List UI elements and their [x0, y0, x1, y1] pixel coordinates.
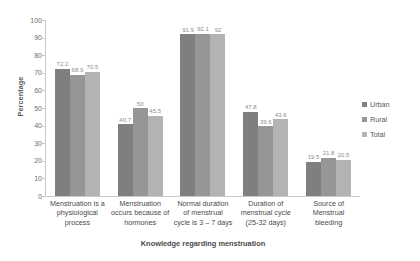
bar-group-bars: 72.268.970.5: [46, 20, 109, 196]
bar[interactable]: 43.6: [273, 119, 288, 196]
y-axis-tick-mark: [42, 90, 45, 91]
x-axis-category-line: Menstrual: [297, 208, 360, 217]
bar-value-label: 47.8: [245, 104, 257, 111]
bar[interactable]: 39.6: [258, 126, 273, 196]
y-axis-tick-label: 30: [16, 140, 42, 147]
y-axis-tick-labels: 1009080706050403020100: [12, 0, 42, 261]
x-axis-category-line: Normal duration: [172, 199, 235, 208]
bar[interactable]: 91.9: [180, 34, 195, 196]
bar-group: 72.268.970.5: [46, 20, 109, 196]
x-axis-category-line: Menstruation is a: [46, 199, 109, 208]
x-axis-line: [45, 196, 360, 197]
bar-value-label: 40.7: [119, 117, 131, 124]
bar-group: 91.992.192: [172, 20, 235, 196]
legend-item[interactable]: Total: [362, 127, 420, 142]
bar[interactable]: 47.8: [243, 112, 258, 196]
y-axis-tick-mark: [42, 20, 45, 21]
x-axis-category-line: process: [46, 218, 109, 227]
bar-value-label: 92: [215, 27, 222, 34]
x-axis-category-line: (25-32 days): [234, 218, 297, 227]
x-axis-category-line: of menstrual: [172, 208, 235, 217]
legend-label: Total: [370, 130, 385, 139]
bar-value-label: 45.5: [149, 108, 161, 115]
y-axis-tick-label: 0: [16, 193, 42, 200]
y-axis-tick-mark: [42, 196, 45, 197]
chart-legend: UrbanRuralTotal: [362, 97, 420, 142]
plot-area: 72.268.970.540.75045.591.992.19247.839.6…: [46, 20, 360, 196]
y-axis-tick-mark: [42, 55, 45, 56]
legend-label: Rural: [370, 115, 387, 124]
bar-value-label: 70.5: [87, 64, 99, 71]
y-axis-tick-label: 20: [16, 157, 42, 164]
bar[interactable]: 70.5: [85, 72, 100, 196]
legend-swatch-icon: [362, 117, 367, 122]
x-axis-category-label: Menstruationoccurs because ofhormones: [109, 199, 172, 227]
x-axis-category-line: Menstruation: [109, 199, 172, 208]
x-axis-category-line: hormones: [109, 218, 172, 227]
bar-value-label: 91.9: [182, 27, 194, 34]
x-axis-category-labels: Menstruation is aphysiologicalprocessMen…: [46, 199, 360, 239]
bar-value-label: 50: [137, 101, 144, 108]
bar[interactable]: 68.9: [70, 75, 85, 196]
x-axis-category-line: cycle is 3 – 7 days: [172, 218, 235, 227]
y-axis-tick-mark: [42, 126, 45, 127]
bar-value-label: 21.8: [323, 150, 335, 157]
bar[interactable]: 92.1: [195, 34, 210, 196]
y-axis-tick-mark: [42, 38, 45, 39]
x-axis-category-line: occurs because of: [109, 208, 172, 217]
y-axis-tick-label: 50: [16, 105, 42, 112]
y-axis-tick-mark: [42, 161, 45, 162]
y-axis-tick-mark: [42, 143, 45, 144]
bar[interactable]: 40.7: [118, 124, 133, 196]
x-axis-title: Knowledge regarding menstruation: [46, 239, 360, 248]
bar[interactable]: 21.8: [321, 158, 336, 196]
x-axis-category-line: menstrual cycle: [234, 208, 297, 217]
x-axis-category-line: Source of: [297, 199, 360, 208]
bar[interactable]: 45.5: [148, 116, 163, 196]
bar-value-label: 72.2: [57, 61, 69, 68]
y-axis-tick-label: 80: [16, 52, 42, 59]
x-axis-category-label: Normal durationof menstrualcycle is 3 – …: [172, 199, 235, 227]
bar-group-bars: 91.992.192: [172, 20, 235, 196]
x-axis-category-line: Duration of: [234, 199, 297, 208]
x-axis-category-label: Menstruation is aphysiologicalprocess: [46, 199, 109, 227]
y-axis-tick-mark: [42, 108, 45, 109]
legend-item[interactable]: Rural: [362, 112, 420, 127]
bar-value-label: 92.1: [197, 26, 209, 33]
bar-group: 47.839.643.6: [234, 20, 297, 196]
bar-group-bars: 40.75045.5: [109, 20, 172, 196]
bar-value-label: 68.9: [72, 67, 84, 74]
bar-value-label: 43.6: [275, 112, 287, 119]
y-axis-tick-label: 60: [16, 87, 42, 94]
y-axis-tick-label: 10: [16, 175, 42, 182]
bar-group: 40.75045.5: [109, 20, 172, 196]
y-axis-tick-label: 100: [16, 17, 42, 24]
legend-swatch-icon: [362, 102, 367, 107]
x-axis-category-label: Duration ofmenstrual cycle(25-32 days): [234, 199, 297, 227]
x-axis-category-label: Source ofMenstrualbleeding: [297, 199, 360, 227]
bar-group: 19.521.820.5: [297, 20, 360, 196]
bar[interactable]: 19.5: [306, 162, 321, 196]
x-axis-category-line: bleeding: [297, 218, 360, 227]
bar-value-label: 39.6: [260, 119, 272, 126]
bar-group-bars: 19.521.820.5: [297, 20, 360, 196]
bar[interactable]: 92: [210, 34, 225, 196]
bar[interactable]: 72.2: [55, 69, 70, 196]
bar-group-bars: 47.839.643.6: [234, 20, 297, 196]
y-axis-tick-mark: [42, 178, 45, 179]
y-axis-tick-label: 70: [16, 69, 42, 76]
bar[interactable]: 20.5: [336, 160, 351, 196]
legend-label: Urban: [370, 100, 390, 109]
x-axis-category-line: physiological: [46, 208, 109, 217]
y-axis-tick-mark: [42, 73, 45, 74]
bar[interactable]: 50: [133, 108, 148, 196]
y-axis-tick-label: 90: [16, 34, 42, 41]
legend-item[interactable]: Urban: [362, 97, 420, 112]
bar-value-label: 19.5: [308, 154, 320, 161]
bar-value-label: 20.5: [338, 152, 350, 159]
bar-chart: Percentage 1009080706050403020100 72.268…: [0, 0, 420, 261]
y-axis-tick-label: 40: [16, 122, 42, 129]
legend-swatch-icon: [362, 132, 367, 137]
